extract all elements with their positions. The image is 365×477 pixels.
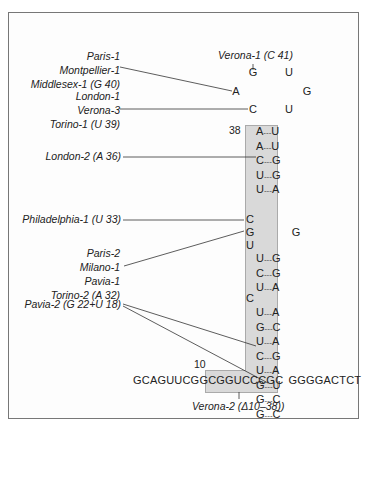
bulge-g-right: G xyxy=(291,226,301,238)
base-pair: C---G xyxy=(256,350,281,365)
base-pair: U---A xyxy=(256,183,281,198)
label-pavia-1: Pavia-1 xyxy=(51,274,120,288)
sequence-left: GCAGUUCGG xyxy=(133,374,208,386)
position-38: 38 xyxy=(229,124,241,136)
base-pair: C---G xyxy=(256,267,281,282)
label-london-2: London-2 (A 36) xyxy=(46,150,122,162)
label-paris-2: Paris-2 xyxy=(51,246,120,260)
loop-a40: A xyxy=(231,85,241,97)
base-pair: U---A xyxy=(256,281,281,296)
base-pair: C---G xyxy=(256,154,281,169)
base-pair: U---A xyxy=(256,306,281,321)
label-verona-3: Verona-3 xyxy=(50,103,120,117)
stem-upper: A---U A---U C---G U---G U---A xyxy=(256,125,281,198)
base-pair: A---U xyxy=(256,140,281,155)
base-pair: U---G xyxy=(256,169,281,184)
position-10: 10 xyxy=(194,358,206,370)
base-pair: G---C xyxy=(256,393,281,408)
stem-lower: U---A G---C U---A C---G U---A G---U G---… xyxy=(256,306,281,422)
sequence-right: GGGGACTCT xyxy=(289,374,362,386)
label-group-london1: London-1 Verona-3 Torino-1 (U 39) xyxy=(50,89,120,131)
bulge-g32: G xyxy=(245,226,255,238)
bulge-u: U xyxy=(245,239,255,251)
loop-u-right: U xyxy=(284,103,294,115)
stem-middle: U---G C---G U---A xyxy=(256,252,281,296)
label-philadelphia-1: Philadelphia-1 (U 33) xyxy=(22,213,121,225)
label-london-1: London-1 xyxy=(50,89,120,103)
label-paris-1: Paris-1 xyxy=(31,49,120,63)
loop-c39: C xyxy=(248,103,258,115)
label-milano-1: Milano-1 xyxy=(51,260,120,274)
linear-sequence: GCAGUUCGGCGGUCCCGC GGGGACTCT xyxy=(133,374,361,386)
label-verona-1: Verona-1 (C 41) xyxy=(218,49,293,61)
loop-g: G xyxy=(302,85,312,97)
base-pair: G---C xyxy=(256,408,281,423)
label-torino-1: Torino-1 (U 39) xyxy=(50,117,120,131)
bulge2-c: C xyxy=(245,292,255,304)
sequence-deleted: CGGUCCCGC xyxy=(208,374,283,386)
base-pair: A---U xyxy=(256,125,281,140)
loop-g41: G xyxy=(248,66,258,78)
base-pair: G---C xyxy=(256,321,281,336)
loop-u: U xyxy=(284,66,294,78)
label-group-paris2: Paris-2 Milano-1 Pavia-1 Torino-2 (A 32) xyxy=(51,246,120,302)
label-group-paris1: Paris-1 Montpellier-1 Middlesex-1 (G 40) xyxy=(31,49,120,91)
base-pair: U---G xyxy=(256,252,281,267)
label-montpellier-1: Montpellier-1 xyxy=(31,63,120,77)
label-pavia-2: Pavia-2 (G 22+U 18) xyxy=(24,298,121,310)
base-pair: U---A xyxy=(256,335,281,350)
bulge-c33: C xyxy=(245,213,255,225)
